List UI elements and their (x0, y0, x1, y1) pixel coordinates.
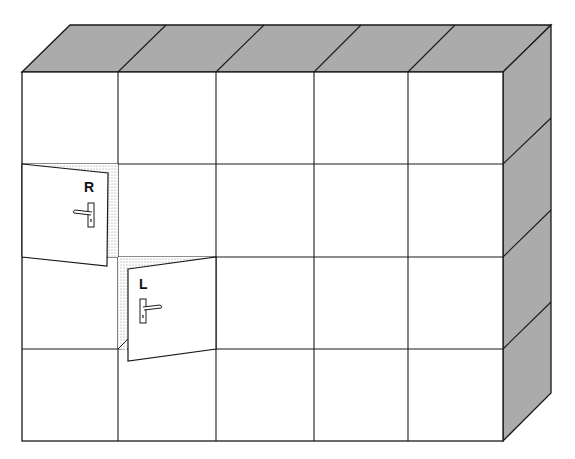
door-r[interactable]: R (22, 164, 118, 266)
top-face (22, 25, 551, 72)
door-l[interactable]: L (118, 257, 216, 361)
right-side-face (503, 25, 551, 441)
door-r-panel (22, 164, 108, 266)
door-r-label: R (84, 179, 94, 195)
locker-block-diagram: R L (0, 0, 575, 459)
door-l-label: L (139, 276, 148, 292)
